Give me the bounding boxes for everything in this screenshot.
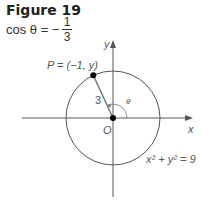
point-p (90, 72, 96, 78)
circle-equation: x² + y² = 9 (145, 153, 196, 165)
origin-point (110, 115, 116, 121)
x-axis-label: x (187, 123, 194, 135)
origin-label: O (103, 124, 112, 136)
point-label: P = (−1, y) (47, 59, 98, 71)
y-axis-arrow-icon (110, 40, 116, 48)
unit-circle-diagram: P = (−1, y) 3 θ O x y x² + y² = 9 (0, 0, 215, 202)
radius-label: 3 (95, 94, 101, 106)
angle-label: θ (126, 97, 131, 106)
y-axis-label: y (103, 38, 111, 50)
x-axis-arrow-icon (185, 115, 193, 121)
